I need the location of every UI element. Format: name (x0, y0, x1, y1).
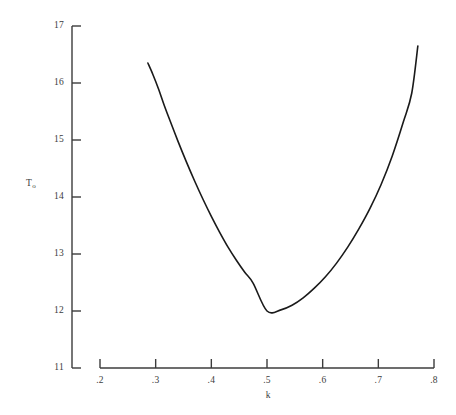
y-axis-tick-label: 13 (42, 248, 64, 258)
y-axis-tick-label: 14 (42, 191, 64, 201)
x-axis-title: k (260, 390, 276, 400)
x-axis-tick-label: .2 (87, 375, 113, 385)
chart-figure: 11121314151617 .2.3.4.5.6.7.8 To k (0, 0, 456, 415)
y-axis-title: To (26, 178, 36, 190)
x-axis-tick-label: .6 (310, 375, 336, 385)
data-curve-line (148, 46, 418, 313)
y-axis-tick-label: 17 (42, 20, 64, 30)
y-axis-tick-label: 15 (42, 134, 64, 144)
x-axis-tick-label: .8 (421, 375, 447, 385)
y-axis-tick-label: 12 (42, 305, 64, 315)
y-axis-tick-label: 11 (42, 362, 64, 372)
y-axis-title-subscript: o (32, 182, 36, 190)
x-axis-tick-label: .7 (365, 375, 391, 385)
x-axis-ticks (100, 359, 434, 368)
plot-area (0, 0, 456, 415)
y-axis-ticks (72, 26, 81, 368)
x-axis-tick-label: .4 (198, 375, 224, 385)
y-axis-title-main: T (26, 178, 32, 188)
y-axis-tick-label: 16 (42, 77, 64, 87)
x-axis-tick-label: .3 (143, 375, 169, 385)
x-axis-tick-label: .5 (254, 375, 280, 385)
